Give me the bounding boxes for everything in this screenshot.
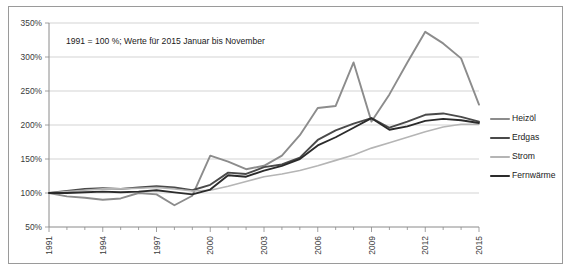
x-tick-label: 2003 bbox=[259, 236, 269, 255]
chart-frame: 50%100%150%200%250%300%350%1991199419972… bbox=[8, 6, 563, 264]
y-tick-label: 300% bbox=[21, 52, 43, 62]
y-tick-label: 100% bbox=[21, 188, 43, 198]
x-tick-label: 2006 bbox=[313, 236, 323, 255]
legend-label-strom: Strom bbox=[512, 151, 535, 161]
y-tick-label: 250% bbox=[21, 86, 43, 96]
x-tick-label: 2000 bbox=[205, 236, 215, 255]
chart-annotation: 1991 = 100 %; Werte für 2015 Januar bis … bbox=[66, 36, 265, 46]
line-chart-plot: 50%100%150%200%250%300%350%1991199419972… bbox=[9, 7, 564, 265]
y-tick-label: 350% bbox=[21, 18, 43, 28]
cropped-title-remnant bbox=[0, 0, 573, 5]
x-tick-label: 2015 bbox=[474, 236, 484, 255]
legend-label-heizl: Heizöl bbox=[512, 113, 536, 123]
series-line-fernwrme bbox=[49, 118, 479, 194]
legend-label-fernwrme: Fernwärme bbox=[512, 170, 556, 180]
y-tick-label: 50% bbox=[25, 222, 42, 232]
x-tick-label: 2009 bbox=[367, 236, 377, 255]
x-tick-label: 1994 bbox=[98, 236, 108, 255]
x-tick-label: 1997 bbox=[152, 236, 162, 255]
y-tick-label: 200% bbox=[21, 120, 43, 130]
x-tick-label: 2012 bbox=[420, 236, 430, 255]
legend-label-erdgas: Erdgas bbox=[512, 132, 539, 142]
y-tick-label: 150% bbox=[21, 154, 43, 164]
x-tick-label: 1991 bbox=[44, 236, 54, 255]
